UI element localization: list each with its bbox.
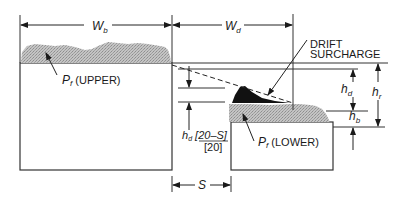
- drift-leader: [268, 40, 307, 95]
- lower-roof-snow: [229, 104, 330, 122]
- wb-label: Wb: [92, 19, 108, 35]
- formula-denominator: [20]: [204, 141, 222, 153]
- drift-surcharge: [232, 86, 290, 103]
- hd-label: hd: [341, 82, 353, 98]
- upper-roof-snow: [21, 42, 171, 63]
- wd-label: Wd: [225, 19, 241, 35]
- drift-dashed-line: [172, 65, 293, 103]
- drift-surcharge-label-line2: SURCHARGE: [310, 48, 380, 60]
- roof-drift-diagram: Wb Wd DRIFT SURCHARGE hd [20–S] [20] hd …: [0, 0, 405, 205]
- hr-label: hr: [372, 85, 382, 101]
- s-label: S: [198, 178, 206, 192]
